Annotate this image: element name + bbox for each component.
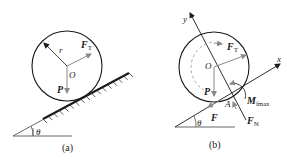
hatch-mark [70, 105, 74, 109]
moment-label: Mfmax [246, 95, 270, 107]
hatch-mark [108, 85, 112, 89]
hatch-mark [102, 87, 106, 91]
normal-force-arrow [233, 102, 236, 109]
panel-a-caption: (a) [62, 142, 73, 154]
tension-force-label: FT [226, 41, 239, 54]
rotation-arrow [214, 43, 222, 44]
normal-force-label: FN [246, 115, 259, 128]
hatch-mark [124, 76, 128, 80]
tension-force-arrow [67, 54, 91, 66]
radius-line [44, 43, 67, 66]
x-axis [175, 64, 280, 127]
angle-label: θ [36, 127, 41, 137]
contact-point-label: A [224, 99, 231, 109]
angle-arc [194, 116, 196, 127]
y-axis-label: y [182, 14, 187, 24]
hatch-mark [86, 96, 90, 100]
incline-hatching [43, 73, 133, 123]
hatch-mark [118, 79, 122, 83]
friction-force-label: F [210, 112, 218, 123]
panel-a: θ r FT O P (a) [13, 31, 133, 154]
diagram-canvas: θ r FT O P (a) x θ y FT [0, 0, 287, 165]
panel-b-caption: (b) [209, 139, 221, 151]
y-axis [190, 13, 246, 120]
tension-force-arrow [214, 55, 246, 67]
hatch-mark [129, 73, 133, 77]
hatch-mark [113, 82, 117, 86]
hatch-mark [97, 90, 101, 94]
hatch-mark [91, 93, 95, 97]
hatch-mark [81, 99, 85, 103]
center-label: O [205, 61, 212, 71]
weight-force-label: P [57, 84, 64, 95]
hatch-mark [43, 119, 47, 123]
center-label: O [69, 70, 76, 80]
hatch-mark [75, 102, 79, 106]
radius-label: r [59, 45, 63, 55]
hatch-mark [48, 116, 52, 120]
panel-b: x θ y FT O P Mfmax A FN F (b) [175, 13, 281, 151]
angle-label: θ [197, 118, 202, 128]
x-axis-label: x [276, 54, 281, 64]
hatch-mark [54, 113, 58, 117]
weight-force-label: P [204, 86, 211, 97]
hatch-mark [59, 110, 63, 114]
hatch-mark [65, 108, 69, 112]
